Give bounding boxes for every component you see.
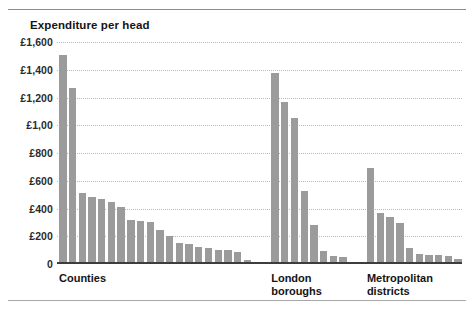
plot-area [57,40,462,264]
bar [175,243,183,262]
y-axis-tick-label: £600 [29,175,53,187]
y-axis-tick-label: £800 [29,147,53,159]
bar [68,88,76,262]
bar [204,248,212,262]
x-axis-line [57,262,462,264]
bar [395,223,403,262]
bar [385,217,393,262]
y-axis-tick-label: £200 [29,230,53,242]
bar [87,197,95,262]
y-axis-tick-label: £1,00 [26,119,53,131]
bar [136,221,144,262]
y-axis-tick-label: £1,400 [20,64,53,76]
bar [165,236,173,262]
bar [107,202,115,262]
bar [116,207,124,262]
bar [300,191,308,262]
bar [194,247,202,262]
bar [280,102,288,262]
bar [184,244,192,262]
bar [270,73,278,262]
plot-wrapper: £1,600£1,400£1,200£1,00£800£600£400£2000… [0,40,474,270]
y-axis-tick-label: £1,200 [20,92,53,104]
top-divider-rule [8,9,466,10]
bar [376,213,384,262]
bar [366,168,374,262]
bar [78,193,86,262]
y-axis-tick-label: £1,600 [20,36,53,48]
bar [97,199,105,262]
bar [309,225,317,262]
page-title: Expenditure per head [30,19,150,31]
y-axis-tick-label: £400 [29,203,53,215]
bar [58,55,66,262]
bar [319,251,327,262]
y-axis: £1,600£1,400£1,200£1,00£800£600£400£2000 [0,40,57,264]
bar-series [57,40,462,262]
group-label-london-boroughs: London boroughs [271,272,322,298]
bar [155,230,163,262]
bar [146,222,154,262]
bar [233,252,241,262]
group-label-metropolitan-districts: Metropolitan districts [367,272,433,298]
x-axis-group-labels: CountiesLondon boroughsMetropolitan dist… [57,272,462,312]
y-axis-tick-label: 0 [47,258,53,270]
bar [223,250,231,262]
bar [290,118,298,262]
chart-figure: Expenditure per head £1,600£1,400£1,200£… [0,0,474,315]
bar [126,220,134,262]
bar [405,248,413,262]
bar [415,254,423,262]
group-label-counties: Counties [59,272,106,285]
bar [214,250,222,262]
bar [424,255,432,262]
bar [434,255,442,262]
